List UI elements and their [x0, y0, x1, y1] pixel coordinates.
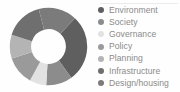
legend-swatch-dot-icon — [98, 56, 104, 62]
legend-item-label: Design/housing — [109, 79, 169, 88]
legend-item[interactable]: Design/housing — [98, 77, 180, 89]
donut-chart-plot — [9, 7, 88, 86]
legend-swatch-dot-icon — [98, 31, 104, 37]
legend-item-label: Governance — [109, 30, 156, 39]
legend-item-label: Planning — [109, 54, 143, 63]
donut-chart-svg — [9, 7, 88, 86]
donut-chart-figure: EnvironmentSocietyGovernancePolicyPlanni… — [0, 0, 180, 92]
chart-legend: EnvironmentSocietyGovernancePolicyPlanni… — [98, 4, 180, 90]
donut-slice-group — [10, 8, 87, 85]
legend-item[interactable]: Planning — [98, 53, 180, 65]
legend-item-label: Environment — [109, 6, 158, 15]
legend-swatch-dot-icon — [98, 68, 104, 74]
legend-swatch-dot-icon — [98, 19, 104, 25]
legend-swatch-dot-icon — [98, 7, 104, 13]
legend-item[interactable]: Policy — [98, 41, 180, 53]
legend-item-label: Society — [109, 18, 138, 27]
legend-swatch-dot-icon — [98, 44, 104, 50]
legend-item[interactable]: Governance — [98, 28, 180, 40]
legend-item[interactable]: Environment — [98, 4, 180, 16]
legend-item[interactable]: Infrastructure — [98, 65, 180, 77]
legend-item[interactable]: Society — [98, 16, 180, 28]
legend-item-label: Infrastructure — [109, 67, 160, 76]
legend-swatch-dot-icon — [98, 80, 104, 86]
legend-item-label: Policy — [109, 42, 132, 51]
